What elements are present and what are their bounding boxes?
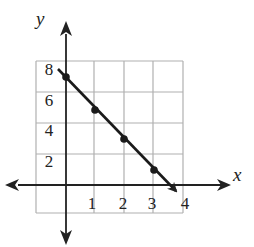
coordinate-plane: y x 8 6 4 2 1 2 3 4 <box>0 0 254 247</box>
x-axis-left-arrow-icon <box>5 179 19 191</box>
y-tick-label-4: 4 <box>45 121 54 140</box>
x-axis-label: x <box>232 164 242 185</box>
x-tick-label-3: 3 <box>148 194 157 213</box>
y-axis-up-arrow-icon <box>60 21 72 36</box>
data-point-0 <box>62 73 70 81</box>
y-tick-label-6: 6 <box>45 91 54 110</box>
data-line <box>58 69 176 191</box>
y-tick-label-8: 8 <box>45 60 54 79</box>
y-axis-label: y <box>34 8 45 29</box>
x-tick-label-1: 1 <box>88 194 97 213</box>
graph-svg: y x 8 6 4 2 1 2 3 4 <box>0 0 254 247</box>
data-point-1 <box>91 106 99 114</box>
x-tick-label-2: 2 <box>119 194 128 213</box>
x-tick-label-4: 4 <box>181 194 190 213</box>
y-tick-label-2: 2 <box>45 152 54 171</box>
data-point-3 <box>150 166 158 174</box>
data-point-2 <box>120 135 128 143</box>
grid <box>36 61 183 213</box>
